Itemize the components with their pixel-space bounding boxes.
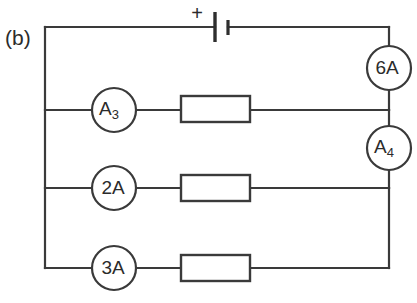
resistor-branch-1 bbox=[181, 96, 250, 122]
ammeter-2a: 2A bbox=[92, 166, 136, 210]
circuit-diagram-figure: + 6A A4 A3 2A 3A (b bbox=[0, 0, 417, 303]
battery-symbol: + bbox=[191, 2, 228, 42]
battery-polarity-label: + bbox=[191, 2, 203, 24]
ammeter-a4: A4 bbox=[367, 126, 411, 170]
resistor-branch-2 bbox=[181, 175, 250, 201]
ammeter-a3-letter: A bbox=[99, 98, 112, 119]
ammeter-6a: 6A bbox=[367, 46, 411, 90]
ammeter-6a-label: 6A bbox=[375, 57, 399, 78]
ammeter-a3-subscript: 3 bbox=[112, 107, 119, 122]
ammeter-3a: 3A bbox=[92, 246, 136, 290]
panel-label: (b) bbox=[5, 26, 31, 49]
ammeter-3a-label: 3A bbox=[101, 257, 125, 278]
ammeter-a4-letter: A bbox=[374, 136, 387, 157]
ammeter-a3: A3 bbox=[92, 88, 136, 132]
circuit-schematic: + 6A A4 A3 2A 3A (b bbox=[0, 0, 417, 303]
resistor-branch-3 bbox=[181, 255, 250, 281]
ammeter-a4-subscript: 4 bbox=[387, 145, 394, 160]
ammeter-2a-label: 2A bbox=[101, 177, 125, 198]
